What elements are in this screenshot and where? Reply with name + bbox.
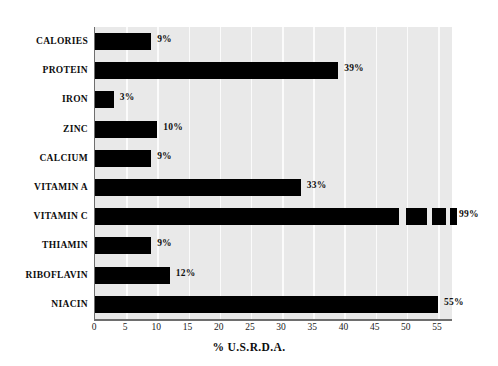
bar <box>95 62 338 79</box>
bar-chart: 9%39%3%10%9%33%99%9%12%55% CALORIESPROTE… <box>0 0 498 366</box>
tick-label: 10 <box>152 322 162 332</box>
bar-row[interactable]: 10% <box>95 115 453 144</box>
x-axis-tick-labels: 0510152025303540455055 <box>0 322 498 340</box>
category-label: VITAMIN C <box>0 202 88 231</box>
bar-value-label: 9% <box>157 151 172 161</box>
bar <box>95 150 151 167</box>
bar-segment <box>95 208 399 225</box>
bar-row[interactable]: 99% <box>95 202 453 231</box>
tick-label: 30 <box>276 322 286 332</box>
tick-label: 0 <box>92 322 97 332</box>
tick-label: 25 <box>245 322 255 332</box>
tick-label: 20 <box>214 322 224 332</box>
bar-row[interactable]: 33% <box>95 173 453 202</box>
category-axis-labels: CALORIESPROTEINIRONZINCCALCIUMVITAMIN AV… <box>0 27 88 319</box>
plot-area: 9%39%3%10%9%33%99%9%12%55% <box>94 27 452 319</box>
bar-value-label: 39% <box>344 63 364 73</box>
category-label: IRON <box>0 85 88 114</box>
bar <box>95 179 301 196</box>
category-label: THIAMIN <box>0 231 88 260</box>
bar-value-label: 10% <box>163 122 183 132</box>
bar-segment <box>432 208 446 225</box>
category-label: CALCIUM <box>0 144 88 173</box>
category-label: NIACIN <box>0 290 88 319</box>
bar-rows: 9%39%3%10%9%33%99%9%12%55% <box>95 27 453 319</box>
bar-row[interactable]: 9% <box>95 27 453 56</box>
bar-row[interactable]: 55% <box>95 290 453 319</box>
bar-value-label: 12% <box>176 268 196 278</box>
bar-row[interactable]: 9% <box>95 144 453 173</box>
category-label: CALORIES <box>0 27 88 56</box>
bar <box>95 237 151 254</box>
tick-label: 50 <box>401 322 411 332</box>
bar <box>95 267 170 284</box>
bar-row[interactable]: 12% <box>95 261 453 290</box>
bar <box>95 296 438 313</box>
tick-label: 5 <box>123 322 128 332</box>
tick-label: 15 <box>183 322 193 332</box>
x-axis-title: % U.S.R.D.A. <box>0 341 498 353</box>
bar-value-label: 99% <box>459 209 479 219</box>
bar-row[interactable]: 39% <box>95 56 453 85</box>
bar-value-label: 9% <box>157 238 172 248</box>
category-label: RIBOFLAVIN <box>0 261 88 290</box>
tick-label: 40 <box>339 322 349 332</box>
tick-label: 35 <box>308 322 318 332</box>
category-label: ZINC <box>0 115 88 144</box>
x-axis-line <box>94 319 452 321</box>
bar-segment <box>450 208 457 225</box>
tick-label: 55 <box>432 322 442 332</box>
bar-row[interactable]: 3% <box>95 85 453 114</box>
bar <box>95 33 151 50</box>
category-label: PROTEIN <box>0 56 88 85</box>
category-label: VITAMIN A <box>0 173 88 202</box>
bar-segment <box>406 208 427 225</box>
bar-value-label: 3% <box>120 92 135 102</box>
bar <box>95 121 157 138</box>
bar-value-label: 33% <box>307 180 327 190</box>
bar <box>95 91 114 108</box>
bar-row[interactable]: 9% <box>95 231 453 260</box>
tick-label: 45 <box>370 322 380 332</box>
bar-value-label: 55% <box>444 297 464 307</box>
bar-value-label: 9% <box>157 34 172 44</box>
